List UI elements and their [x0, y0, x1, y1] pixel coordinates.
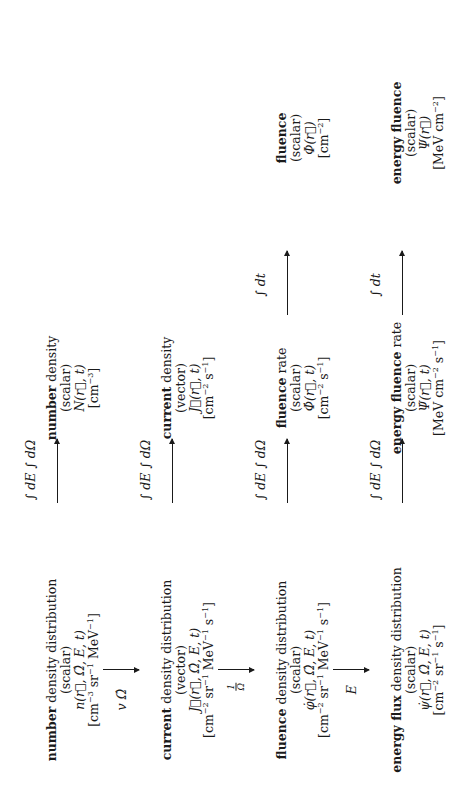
node-kind: (vector) — [174, 580, 188, 761]
node-unit: [cm−2 sr−1 MeV−1 s−1] — [202, 580, 216, 761]
node-title-bold: fluence — [274, 709, 289, 760]
node-kind: (scalar) — [289, 348, 303, 429]
node-unit: [cm−2 s−1] — [317, 348, 331, 429]
node-symbol: J⃗(r⃗, t) — [188, 337, 202, 440]
integrate-energy-angle-label: ∫ dE ∫ dΩ — [138, 440, 153, 500]
node-title-bold: energy flux — [389, 695, 404, 773]
right-arrow-icon — [172, 439, 173, 503]
node-title-bold: energy fluence — [389, 82, 404, 185]
node-title-rest: density — [44, 336, 59, 386]
current-density-node: current density (vector) J⃗(r⃗, t) [cm−2… — [160, 337, 216, 440]
node-symbol: Φ̇(r⃗, t) — [303, 348, 317, 429]
node-symbol: n(r⃗, Ω̂, E, t) — [73, 579, 87, 762]
node-title-bold: fluence — [274, 378, 289, 429]
node-kind: (scalar) — [404, 82, 418, 185]
node-title-bold: fluence — [274, 113, 289, 164]
right-arrow-icon — [287, 439, 288, 503]
integrate-time-label: ∫ dt — [253, 273, 268, 297]
down-arrow-icon — [103, 669, 139, 670]
fluence-density-distribution-node: fluence density distribution (scalar) φ̇… — [275, 581, 331, 760]
node-title-bold: current — [159, 387, 174, 440]
node-symbol: J⃗(r⃗, Ω̂, E, t) — [188, 580, 202, 761]
energy-flux-density-distribution-node: energy flux density distribution (scalar… — [390, 567, 446, 773]
right-arrow-icon — [287, 251, 288, 315]
down-arrow-icon — [218, 669, 254, 670]
current-density-distribution-node: current density distribution (vector) J⃗… — [160, 580, 216, 761]
node-title-rest: rate — [274, 348, 289, 378]
energy-fluence-rate-node: energy fluence rate (scalar) Ψ̇(r⃗, t) [… — [390, 322, 446, 455]
quantity-relationship-diagram: number density distribution (scalar) n(r… — [0, 0, 469, 793]
node-title-bold: number — [44, 707, 59, 762]
integrate-energy-angle-label: ∫ dE ∫ dΩ — [253, 440, 268, 500]
energy-multiplier-label: E — [344, 685, 359, 694]
node-title-rest: density distribution — [389, 567, 404, 695]
node-symbol: Ψ̇(r⃗, t) — [418, 322, 432, 455]
integrate-energy-angle-label: ∫ dE ∫ dΩ — [368, 440, 383, 500]
fluence-rate-node: fluence rate (scalar) Φ̇(r⃗, t) [cm−2 s−… — [275, 348, 331, 429]
integrate-time-label: ∫ dt — [368, 273, 383, 297]
node-unit: [MeV cm−2] — [432, 82, 446, 185]
inverse-omega-label: 1Ω — [227, 683, 246, 691]
node-unit: [cm−3] — [87, 336, 101, 441]
energy-fluence-node: energy fluence (scalar) Ψ(r⃗) [MeV cm−2] — [390, 82, 446, 185]
node-title-rest: density distribution — [159, 580, 174, 708]
number-density-distribution-node: number density distribution (scalar) n(r… — [45, 579, 101, 762]
fraction: 1Ω — [227, 683, 246, 691]
node-kind: (vector) — [174, 337, 188, 440]
node-kind: (scalar) — [59, 336, 73, 441]
node-symbol: N(r⃗, t) — [73, 336, 87, 441]
node-title-bold: energy fluence — [389, 352, 404, 455]
right-arrow-icon — [402, 251, 403, 315]
node-unit: [cm−3 sr−1 MeV−1] — [87, 579, 101, 762]
integrate-energy-angle-label: ∫ dE ∫ dΩ — [23, 440, 38, 500]
node-title-bold: current — [159, 708, 174, 761]
node-title-rest: density — [159, 337, 174, 387]
node-symbol: φ̇(r⃗, Ω̂, E, t) — [303, 581, 317, 760]
node-title-rest: rate — [389, 322, 404, 352]
node-symbol: ψ̇(r⃗, Ω̂, E, t) — [418, 567, 432, 773]
velocity-omega-label: v Ω̂ — [114, 689, 129, 710]
node-unit: [cm−2 sr−1 MeV−1 s−1] — [317, 581, 331, 760]
node-unit: [cm−2 sr−1 s−1] — [432, 567, 446, 773]
right-arrow-icon — [57, 439, 58, 503]
node-title-bold: number — [44, 386, 59, 441]
node-kind: (scalar) — [289, 113, 303, 164]
node-title-rest: density distribution — [44, 579, 59, 707]
node-unit: [MeV cm−2 s−1] — [432, 322, 446, 455]
node-kind: (scalar) — [289, 581, 303, 760]
number-density-node: number density (scalar) N(r⃗, t) [cm−3] — [45, 336, 101, 441]
node-kind: (scalar) — [404, 322, 418, 455]
node-kind: (scalar) — [404, 567, 418, 773]
node-title-rest: density distribution — [274, 581, 289, 709]
node-symbol: Φ(r⃗) — [303, 113, 317, 164]
node-unit: [cm−2 s−1] — [202, 337, 216, 440]
fluence-node: fluence (scalar) Φ(r⃗) [cm−2] — [275, 113, 331, 164]
node-unit: [cm−2] — [317, 113, 331, 164]
node-kind: (scalar) — [59, 579, 73, 762]
down-arrow-icon — [333, 669, 369, 670]
node-symbol: Ψ(r⃗) — [418, 82, 432, 185]
